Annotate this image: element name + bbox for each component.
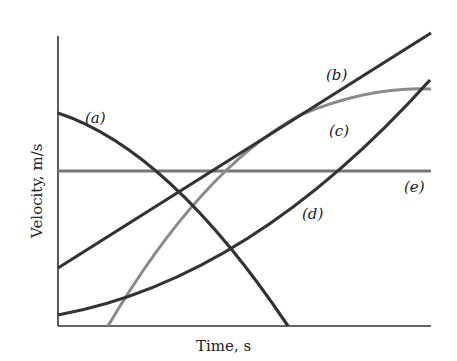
label-d: (d) [302, 205, 323, 223]
label-b: (b) [326, 66, 347, 84]
x-axis-title: Time, s [196, 337, 251, 355]
series-d-curve [58, 80, 430, 315]
velocity-time-chart: (a) (b) (c) (d) (e) Time, s Velocity, m/… [0, 0, 457, 361]
label-e: (e) [404, 178, 425, 196]
y-axis-title: Velocity, m/s [28, 144, 46, 239]
label-a: (a) [85, 109, 106, 127]
label-c: (c) [329, 122, 349, 140]
series-b-line [58, 33, 431, 268]
